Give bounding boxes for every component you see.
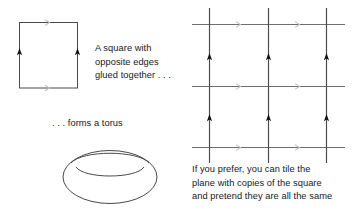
tiling-caption: If you prefer, you can tile the plane wi…: [192, 163, 332, 204]
glued-square-diagram: [17, 20, 80, 91]
torus-caption: . . . forms a torus: [52, 117, 123, 131]
square-caption-line-3: glued together . . .: [95, 69, 171, 83]
torus-diagram: [63, 151, 157, 204]
tiling-caption-line-2: plane with copies of the square: [192, 177, 332, 191]
topology-figure: A square with opposite edges glued toget…: [0, 0, 359, 223]
square-caption: A square with opposite edges glued toget…: [95, 42, 171, 83]
tiling-caption-line-1: If you prefer, you can tile the: [192, 163, 332, 177]
square-outline: [20, 23, 78, 89]
torus-caption-line-1: . . . forms a torus: [52, 117, 123, 131]
square-caption-line-2: opposite edges: [95, 56, 171, 70]
torus-hole-upper-arc: [71, 153, 149, 163]
tiling-caption-line-3: and pretend they are all the same: [192, 190, 332, 204]
tiling-grid-diagram: [192, 8, 345, 163]
square-caption-line-1: A square with: [95, 42, 171, 56]
torus-hole-lower-arc: [76, 167, 144, 176]
